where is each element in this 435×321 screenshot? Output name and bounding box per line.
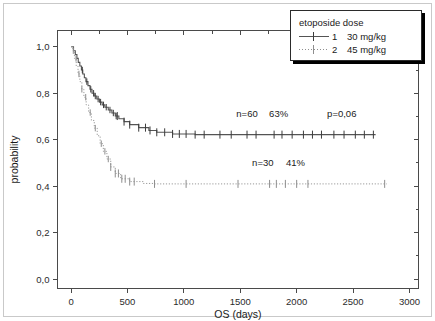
plot-frame: [58, 31, 419, 289]
x-axis-title: OS (days): [214, 308, 261, 320]
annotation-n-dotted: n=30: [252, 157, 273, 168]
x-tick-label-1000: 1000: [173, 296, 194, 307]
y-tick-label-0,4: 0,4: [36, 181, 49, 192]
chart-legend: etoposide dose 1 30 mg/kg 2 45 mg/kg: [290, 10, 422, 61]
y-axis-title: probability: [8, 135, 20, 184]
legend-entry-1: 1 30 mg/kg: [299, 31, 413, 42]
x-tick-label-0: 0: [68, 296, 73, 307]
legend-line-sample-solid-icon: [299, 32, 329, 41]
legend-entry-key-1: 1: [332, 31, 340, 42]
x-tick-label-500: 500: [120, 296, 136, 307]
y-tick-label-0,6: 0,6: [36, 134, 49, 145]
x-tick-label-1500: 1500: [230, 296, 251, 307]
legend-entry-2: 2 45 mg/kg: [299, 44, 413, 55]
annotation-pct-solid: 63%: [269, 108, 289, 119]
x-tick-label-3000: 3000: [399, 296, 420, 307]
y-tick-label-0,2: 0,2: [36, 227, 49, 238]
legend-title: etoposide dose: [299, 17, 413, 28]
y-tick-label-0,8: 0,8: [36, 88, 49, 99]
legend-entry-label-2: 45 mg/kg: [347, 44, 386, 55]
annotation-pvalue: p=0,06: [327, 108, 356, 119]
x-tick-label-2500: 2500: [342, 296, 363, 307]
legend-line-sample-dotted-icon: [299, 45, 329, 54]
y-tick-label-1,0: 1,0: [36, 41, 49, 52]
survival-chart-figure: 0500100015002000250030000,00,20,40,60,81…: [0, 0, 435, 321]
legend-entry-key-2: 2: [332, 44, 340, 55]
y-tick-label-0,0: 0,0: [36, 274, 49, 285]
annotation-n-solid: n=60: [236, 108, 257, 119]
legend-entry-label-1: 30 mg/kg: [347, 31, 386, 42]
x-tick-label-2000: 2000: [286, 296, 307, 307]
annotation-pct-dotted: 41%: [286, 157, 306, 168]
